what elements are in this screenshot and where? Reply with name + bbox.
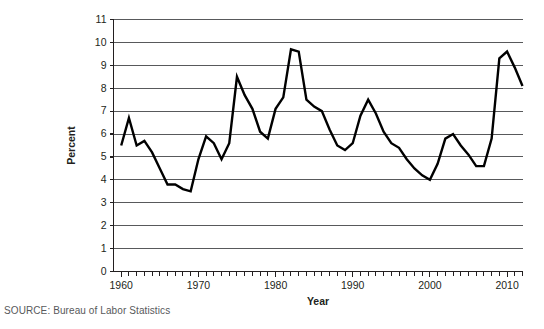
x-axis-tick-label: 1960 xyxy=(110,279,134,291)
y-axis-tick-label: 4 xyxy=(101,173,107,185)
chart-plot-area: 01234567891011 196019701980199020002010 … xyxy=(0,0,544,329)
y-axis-tick-label: 2 xyxy=(101,219,107,231)
x-axis-tick-label: 1970 xyxy=(187,279,211,291)
y-axis-tick-label: 10 xyxy=(95,36,107,48)
y-axis-tick-label: 9 xyxy=(101,59,107,71)
x-axis-title: Year xyxy=(307,295,329,307)
x-axis-tick-label: 2000 xyxy=(418,279,442,291)
unemployment-rate-line xyxy=(121,49,522,191)
x-axis-tick-label: 1980 xyxy=(264,279,288,291)
y-axis-tick-label: 6 xyxy=(101,127,107,139)
y-axis-ticks-group: 01234567891011 xyxy=(95,13,114,277)
y-axis-title: Percent xyxy=(65,126,77,165)
unemployment-rate-figure: 01234567891011 196019701980199020002010 … xyxy=(0,0,544,329)
y-axis-tick-label: 0 xyxy=(101,265,107,277)
x-axis-ticks-group: 196019701980199020002010 xyxy=(110,279,519,291)
y-axis-tick-label: 11 xyxy=(96,13,107,25)
source-note: SOURCE: Bureau of Labor Statistics xyxy=(4,305,170,316)
y-axis-tick-label: 7 xyxy=(101,104,107,116)
y-axis-tick-label: 5 xyxy=(101,150,107,162)
y-axis-tick-label: 3 xyxy=(101,196,107,208)
x-axis-tick-label: 1990 xyxy=(341,279,365,291)
y-axis-tick-label: 1 xyxy=(101,242,107,254)
y-axis-tick-label: 8 xyxy=(101,82,107,94)
x-axis-tick-label: 2010 xyxy=(495,279,519,291)
x-axis-minor-ticks-group xyxy=(121,272,522,278)
gridlines-group xyxy=(114,20,523,249)
line-chart-canvas: 01234567891011 196019701980199020002010 … xyxy=(0,0,544,329)
